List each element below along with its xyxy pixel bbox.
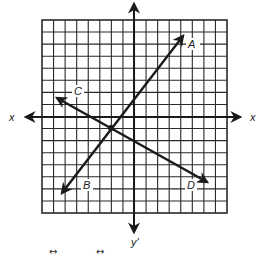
intersection-point	[108, 125, 114, 131]
coordinate-diagram: A B C D x x' y' ↔ ↔	[0, 0, 256, 257]
label-d: D	[187, 179, 195, 191]
y-axis-label-bottom: y'	[130, 236, 140, 248]
label-a: A	[187, 38, 195, 50]
x-axis-label-left: x	[8, 111, 15, 123]
footer-symbol-1: ↔	[49, 246, 57, 257]
label-c: C	[74, 85, 82, 97]
footer-symbol-2: ↔	[96, 246, 104, 257]
label-b: B	[83, 179, 90, 191]
x-axis-label-right: x'	[249, 111, 256, 123]
